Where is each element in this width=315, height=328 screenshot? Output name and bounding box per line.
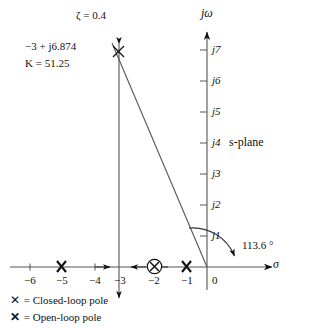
tick-label-imag-j3: j3 <box>212 168 221 179</box>
closed-loop-pole-annotation: −3 + j6.874 <box>25 41 76 52</box>
tick-label-imag-j2: j2 <box>212 199 221 210</box>
tick-label-real-minus-5: −5 <box>56 275 68 286</box>
legend-label-open-loop: = Open-loop pole <box>24 311 102 323</box>
gain-annotation: K = 51.25 <box>25 58 69 69</box>
imaginary-axis <box>200 32 207 290</box>
tick-label-imag-j6: j6 <box>212 75 221 86</box>
tick-label-imag-j7: j7 <box>212 44 221 55</box>
imag-axis-ticks <box>200 50 207 236</box>
tick-label-imag-j4: j4 <box>212 137 221 148</box>
zeta-annotation: ζ = 0.4 <box>76 10 106 21</box>
tick-label-real-minus-6: −6 <box>24 275 36 286</box>
tick-label-imag-j5: j5 <box>212 106 221 117</box>
legend-label-closed-loop: = Closed-loop pole <box>24 294 108 306</box>
tick-label-real-minus-2: −2 <box>148 275 160 286</box>
sigma-axis-label: σ <box>273 259 279 270</box>
tick-label-real-minus-1: −1 <box>181 275 193 286</box>
x-thin-icon: ✕ <box>9 293 21 307</box>
angle-annotation: 113.6 ° <box>242 240 274 251</box>
zeta-line <box>112 43 207 267</box>
jomega-axis-label: jω <box>201 8 213 19</box>
legend-row-closed-loop: ✕ = Closed-loop pole <box>9 293 108 307</box>
tick-label-real-minus-3: −3 <box>114 275 126 286</box>
root-locus-figure: σ jω s-plane −6 −5 −4 −3 −2 −1 0 j1 j2 j… <box>0 0 315 328</box>
tick-label-origin: 0 <box>212 275 218 286</box>
open-loop-pole-minus-2-circled <box>147 259 161 273</box>
tick-label-real-minus-4: −4 <box>89 275 101 286</box>
s-plane-label: s-plane <box>229 137 264 148</box>
x-bold-icon: ✕ <box>9 310 21 324</box>
tick-label-imag-j1: j1 <box>212 230 221 241</box>
legend-row-open-loop: ✕ = Open-loop pole <box>9 310 101 324</box>
